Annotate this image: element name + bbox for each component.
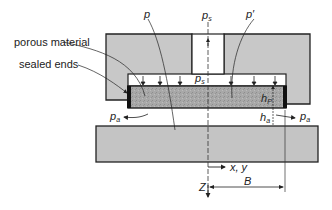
label-p-prime: p′ [246,9,254,20]
label-xy-axis: x, y [230,162,247,173]
label-z-axis: Z [199,182,206,193]
bearing-diagram [0,0,332,210]
label-pa-right: pa [300,111,310,123]
sealed-end-left [127,86,131,108]
label-ps-top: ps [202,10,212,22]
label-width-b: B [244,176,251,187]
label-pa-left: pa [110,111,120,123]
label-hp: hP [261,93,272,105]
label-sealed-ends: sealed ends [19,59,78,70]
label-p: p [144,9,150,20]
label-porous-material: porous material [14,37,90,48]
sealed-end-right [283,86,287,108]
label-ps-inner: ps [195,73,205,85]
label-ha: ha [260,112,270,124]
